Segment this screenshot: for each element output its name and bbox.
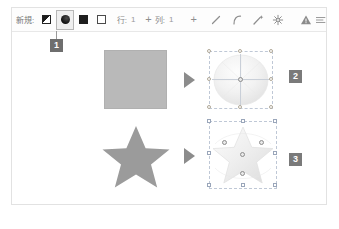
add-item-icon[interactable]: +: [190, 14, 196, 25]
gradient-square-tool[interactable]: [39, 13, 53, 27]
warning-triangle-icon[interactable]: [298, 12, 314, 28]
shape-node[interactable]: [222, 140, 227, 145]
outlined-square-tool[interactable]: [95, 13, 109, 27]
wand-tool-icon[interactable]: [250, 12, 266, 28]
selection-handle[interactable]: [269, 105, 273, 109]
row1-right-arrow-icon: [184, 72, 195, 88]
selection-handle[interactable]: [273, 183, 277, 187]
column-label: 列:: [155, 14, 165, 25]
center-node[interactable]: [240, 152, 245, 157]
selection-handle[interactable]: [238, 105, 242, 109]
outlined-square-icon: [97, 15, 106, 24]
filled-circle-icon: [61, 15, 70, 24]
callout-1-stem: [56, 31, 57, 39]
selection-handle[interactable]: [207, 183, 211, 187]
selection-handle[interactable]: [207, 77, 211, 81]
selection-handle[interactable]: [269, 49, 273, 53]
result-star-group[interactable]: [212, 124, 274, 186]
row-value: 1: [131, 15, 135, 24]
menu-icon[interactable]: [316, 12, 326, 28]
callout-badge-2: 2: [289, 70, 302, 83]
shape-node[interactable]: [240, 171, 245, 176]
callout-badge-3: 3: [289, 153, 302, 166]
add-column-icon[interactable]: +: [145, 14, 151, 25]
shape-node[interactable]: [259, 140, 264, 145]
column-value: 1: [169, 15, 173, 24]
selection-handle[interactable]: [238, 49, 242, 53]
sparkle-tool-icon[interactable]: [270, 12, 286, 28]
selection-handle[interactable]: [241, 119, 245, 123]
selection-handle[interactable]: [269, 77, 273, 81]
selection-handle[interactable]: [207, 49, 211, 53]
line-tool-icon[interactable]: [208, 12, 224, 28]
canvas: 2: [12, 32, 326, 204]
selection-handle[interactable]: [207, 151, 211, 155]
result-ellipse-group[interactable]: [212, 54, 270, 106]
filled-square-icon: [79, 15, 88, 24]
gradient-square-icon: [42, 15, 51, 24]
row-label: 行:: [117, 14, 127, 25]
selection-handle[interactable]: [207, 105, 211, 109]
curve-tool-icon[interactable]: [229, 12, 245, 28]
selection-handle[interactable]: [241, 183, 245, 187]
source-star-shape[interactable]: [102, 124, 170, 189]
new-shape-label: 新規:: [16, 14, 34, 25]
center-node[interactable]: [238, 77, 243, 82]
callout-badge-1: 1: [50, 39, 63, 52]
row-field[interactable]: 行: 1: [117, 14, 136, 25]
selection-handle[interactable]: [207, 119, 211, 123]
app-root: 新規: 行: 1 + 列: 1 +: [0, 0, 339, 229]
column-field[interactable]: 列: 1: [155, 14, 174, 25]
selection-handle[interactable]: [273, 151, 277, 155]
source-square-shape[interactable]: [104, 50, 167, 109]
row2-right-arrow-icon: [184, 148, 195, 164]
toolbar: 新規: 行: 1 + 列: 1 +: [12, 8, 326, 32]
filled-square-tool[interactable]: [77, 13, 91, 27]
ellipse-tool[interactable]: [56, 10, 74, 30]
selection-handle[interactable]: [273, 119, 277, 123]
